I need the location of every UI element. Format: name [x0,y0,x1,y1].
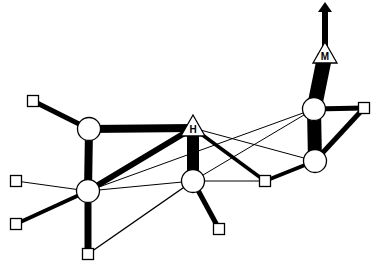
square-node-icon [260,176,271,187]
edge-c_b-H [88,128,193,191]
circle-node-icon [182,170,205,193]
square-node-icon [11,219,22,230]
node-sq_b [83,249,94,260]
circle-node-icon [304,150,327,173]
square-node-icon [28,96,39,107]
node-c_d [303,98,326,121]
circle-node-icon [77,180,100,203]
square-node-icon [11,176,22,187]
circle-node-icon [78,118,101,141]
node-c_c [182,170,205,193]
node-sq_bm [214,224,225,235]
edge-c_a-H [89,128,193,129]
square-node-icon [359,103,370,114]
node-label: M [321,51,329,62]
node-label: H [189,124,196,135]
node-sq_tl [28,96,39,107]
node-sq_mr [260,176,271,187]
node-sq_r [359,103,370,114]
edge-sq_b-c_c [88,181,193,254]
square-node-icon [214,224,225,235]
node-sq_ll [11,219,22,230]
node-c_e [304,150,327,173]
circle-node-icon [303,98,326,121]
node-sq_l [11,176,22,187]
edge-H-c_e [193,128,315,161]
node-c_b [77,180,100,203]
node-c_a [78,118,101,141]
node-M: M [313,42,337,63]
network-diagram: HM [0,0,381,267]
arrow-up-icon [318,2,332,12]
square-node-icon [83,249,94,260]
